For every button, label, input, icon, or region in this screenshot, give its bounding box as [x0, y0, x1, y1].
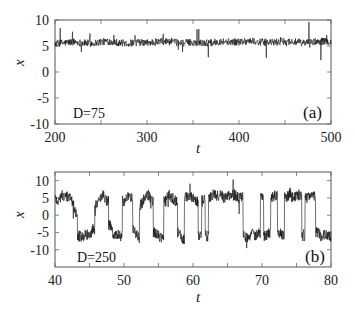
panel-b-ylabel: x	[11, 211, 27, 219]
y-tick-label: 0	[42, 65, 49, 80]
panel-a: 200300400500-10-50510 D=75 (a) x t	[11, 13, 342, 156]
panel-b-xlabel: t	[196, 289, 201, 305]
y-tick-label: 10	[35, 13, 49, 28]
x-tick-label: 300	[137, 130, 158, 145]
x-tick-label: 200	[45, 130, 66, 145]
figure: 200300400500-10-50510 D=75 (a) x t 40506…	[0, 0, 355, 320]
panel-a-ylabel: x	[11, 59, 27, 67]
panel-b-annotation: D=250	[77, 250, 116, 265]
y-tick-label: 0	[42, 208, 49, 223]
x-tick-label: 60	[186, 273, 200, 288]
y-tick-label: -10	[30, 243, 49, 258]
y-tick-label: 10	[35, 174, 49, 189]
x-tick-label: 50	[117, 273, 131, 288]
y-tick-label: -5	[37, 225, 49, 240]
y-tick-label: 5	[42, 191, 49, 206]
panel-b-tag: (b)	[305, 247, 325, 266]
panel-a-tag: (a)	[303, 103, 322, 122]
panel-b: 4050607080-10-50510 D=250 (b) x t	[11, 172, 338, 305]
y-tick-label: -10	[30, 117, 49, 132]
y-tick-label: -5	[37, 91, 49, 106]
y-tick-label: 5	[42, 39, 49, 54]
panel-a-annotation: D=75	[73, 106, 105, 121]
x-tick-label: 400	[229, 130, 250, 145]
panel-a-xlabel: t	[196, 140, 201, 156]
x-tick-label: 40	[48, 273, 62, 288]
x-tick-label: 500	[321, 130, 342, 145]
x-tick-label: 70	[255, 273, 269, 288]
x-tick-label: 80	[324, 273, 338, 288]
